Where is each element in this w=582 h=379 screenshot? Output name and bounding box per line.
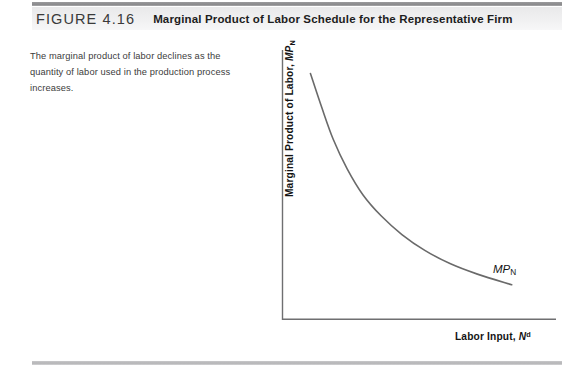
curve-label-symbol: MP <box>493 263 510 275</box>
figure-caption: The marginal product of labor declines a… <box>30 48 235 97</box>
x-axis-superscript: d <box>526 330 531 339</box>
y-axis-title: Marginal Product of Labor, MPN <box>284 31 297 206</box>
mp-n-curve <box>310 73 511 284</box>
figure-number-label: FIGURE 4.16 <box>32 11 135 27</box>
figure-header: FIGURE 4.16 Marginal Product of Labor Sc… <box>32 7 513 30</box>
curve-label-subscript: N <box>510 268 516 277</box>
y-axis-subscript: N <box>288 40 297 45</box>
mp-n-curve-label: MPN <box>493 263 516 277</box>
x-axis-title: Labor Input, Nd <box>455 330 531 342</box>
figure-header-band: FIGURE 4.16 Marginal Product of Labor Sc… <box>32 7 562 30</box>
figure-top-rule <box>32 2 562 6</box>
y-axis-title-text: Marginal Product of Labor, <box>284 61 295 197</box>
y-axis-symbol: MP <box>284 45 295 61</box>
figure-title: Marginal Product of Labor Schedule for t… <box>153 13 512 25</box>
chart-plot-area: Marginal Product of Labor, MPN Labor Inp… <box>252 38 572 348</box>
x-axis-title-text: Labor Input, <box>455 331 519 342</box>
figure-bottom-rule <box>32 361 562 365</box>
chart-svg <box>252 38 572 348</box>
